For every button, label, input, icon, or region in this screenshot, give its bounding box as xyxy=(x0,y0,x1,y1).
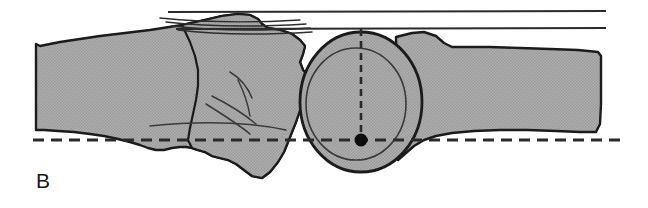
rotation-center-marker-dot xyxy=(355,134,368,147)
anatomical-figure-panel: B xyxy=(0,0,648,208)
right-bone-shaft xyxy=(396,32,601,160)
panel-label-b: B xyxy=(36,170,51,191)
upper-reference-line xyxy=(168,11,606,12)
mid-condyle-mass xyxy=(182,14,312,178)
joint-tracing-illustration xyxy=(0,0,648,208)
bone-shapes-group xyxy=(36,14,601,178)
lower-reference-line xyxy=(176,28,606,29)
